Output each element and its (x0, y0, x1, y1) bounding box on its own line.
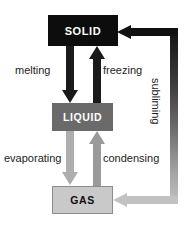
freezing-arrowhead-icon (89, 46, 105, 59)
state-box-liquid: LIQUID (52, 103, 113, 131)
label-condensing: condensing (103, 152, 159, 164)
subliming-arrow-riser (170, 28, 178, 204)
label-subliming: subliming (150, 78, 162, 124)
freezing-arrow-shaft (93, 58, 101, 103)
condensing-arrowhead-icon (89, 131, 105, 144)
state-box-gas: GAS (52, 186, 113, 214)
subliming-to-gas-arrowhead-icon (113, 193, 127, 207)
label-freezing: freezing (103, 64, 142, 76)
subliming-to-solid-arrowhead-icon (117, 25, 131, 39)
subliming-arrow-bottom-shaft (126, 196, 178, 204)
melting-arrowhead-icon (62, 90, 78, 103)
state-box-solid: SOLID (48, 15, 118, 46)
melting-arrow-shaft (66, 46, 74, 94)
label-evaporating: evaporating (4, 152, 62, 164)
evaporating-arrowhead-icon (62, 172, 78, 185)
subliming-arrow-top-shaft (130, 28, 178, 36)
evaporating-arrow-shaft (66, 131, 74, 175)
phase-change-diagram: SOLID LIQUID GAS melting freezing evapor… (0, 0, 185, 227)
label-melting: melting (15, 64, 50, 76)
condensing-arrow-shaft (93, 144, 101, 186)
